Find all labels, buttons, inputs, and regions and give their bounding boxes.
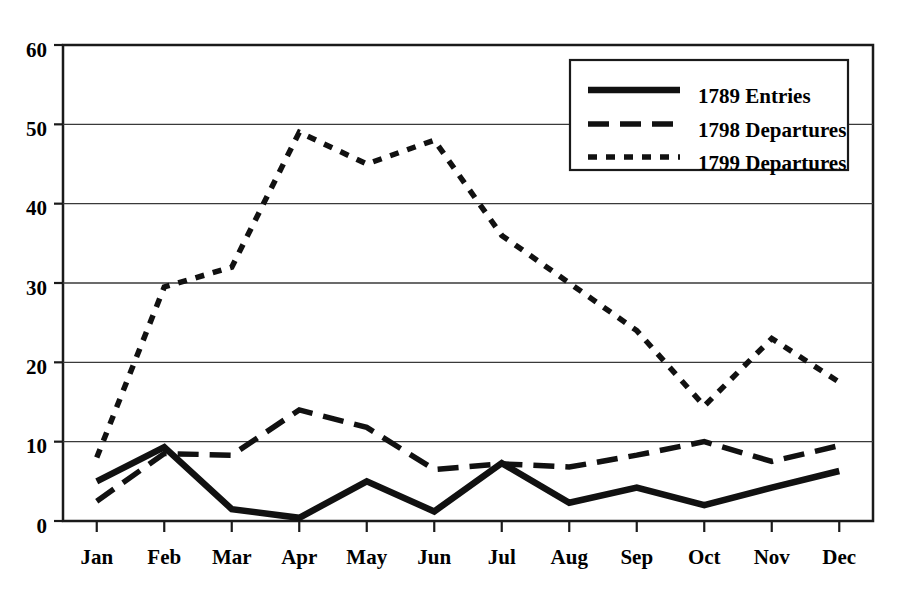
series-line-1: [97, 447, 840, 518]
x-axis-labels: JanFebMarAprMayJunJulAugSepOctNovDec: [80, 545, 856, 569]
x-tick-label: Jun: [417, 545, 451, 569]
series-line-3: [97, 132, 840, 457]
x-tick-label: Mar: [212, 545, 252, 569]
y-tick-label: 60: [26, 38, 47, 62]
legend-label-2: 1798 Departures: [698, 118, 846, 142]
chart-canvas: 1789 Entries1798 Departures1799 Departur…: [0, 0, 907, 599]
chart-legend: 1789 Entries1798 Departures1799 Departur…: [570, 60, 848, 175]
x-tick-label: Nov: [754, 545, 791, 569]
y-axis-ticks: [54, 45, 63, 521]
y-tick-label: 40: [26, 196, 47, 220]
x-tick-label: Feb: [147, 545, 181, 569]
x-tick-label: May: [346, 545, 387, 569]
y-tick-label: 20: [26, 355, 47, 379]
data-series-group: [97, 132, 840, 518]
x-tick-label: Aug: [551, 545, 589, 569]
x-tick-label: Dec: [822, 545, 856, 569]
y-tick-label: 0: [37, 514, 48, 538]
legend-label-3: 1799 Departures: [698, 151, 846, 175]
y-tick-label: 30: [26, 276, 47, 300]
y-axis-labels: 0102030405060: [26, 38, 47, 538]
x-tick-label: Jul: [488, 545, 516, 569]
x-tick-label: Sep: [620, 545, 653, 569]
y-tick-label: 10: [26, 434, 47, 458]
x-tick-label: Apr: [281, 545, 317, 569]
line-chart: 1789 Entries1798 Departures1799 Departur…: [0, 0, 907, 599]
x-axis-ticks: [97, 521, 840, 532]
y-tick-label: 50: [26, 117, 47, 141]
x-tick-label: Jan: [80, 545, 113, 569]
legend-label-1: 1789 Entries: [698, 84, 811, 108]
x-tick-label: Oct: [688, 545, 721, 569]
